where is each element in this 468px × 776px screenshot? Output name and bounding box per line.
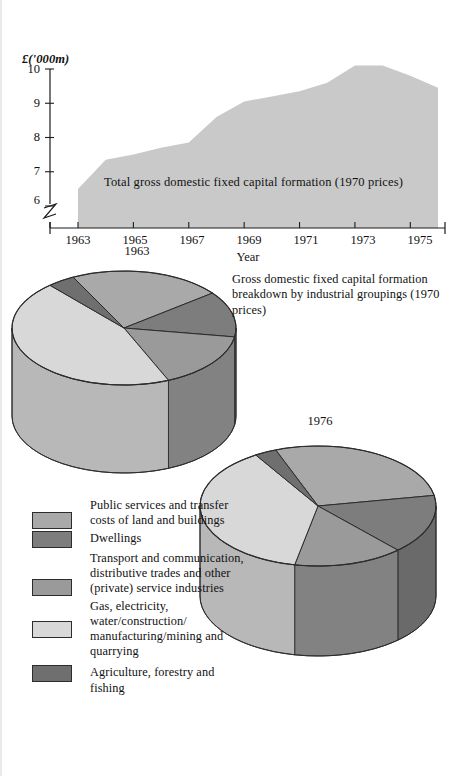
area-series-polygon (78, 66, 438, 228)
legend-swatch-dwellings (32, 531, 72, 548)
y-tick-label-10: 10 (18, 63, 40, 76)
legend-item-public-services: Public services and transfer costs of la… (32, 498, 247, 529)
legend-label-public-services: Public services and transfer costs of la… (90, 498, 247, 528)
y-tick-label-9: 9 (18, 97, 40, 110)
x-tick-label-1967: 1967 (170, 234, 214, 247)
legend-swatch-transport (32, 579, 72, 596)
legend-swatch-gas-electricity (32, 621, 72, 638)
legend-label-gas-electricity: Gas, electricity, water/construction/ ma… (90, 599, 247, 660)
pie-1976-year-label: 1976 (285, 415, 355, 428)
figure-page: £('000m) 10 9 8 7 6 1963 1965 1967 1 (0, 0, 468, 776)
x-tick-label-1971: 1971 (284, 234, 328, 247)
legend-swatch-public-services (32, 512, 72, 529)
pie-1963-year-label: 1963 (102, 245, 172, 258)
legend-item-transport: Transport and communication, distributiv… (32, 551, 247, 597)
y-tick-label-8: 8 (18, 131, 40, 144)
x-tick-label-1973: 1973 (341, 234, 385, 247)
legend-label-transport: Transport and communication, distributiv… (90, 551, 247, 597)
legend-item-gas-electricity: Gas, electricity, water/construction/ ma… (32, 599, 247, 660)
area-chart: £('000m) 10 9 8 7 6 1963 1965 1967 1 (0, 28, 468, 253)
legend-item-dwellings: Dwellings (32, 531, 247, 548)
x-tick-label-1963: 1963 (56, 234, 100, 247)
legend-label-agriculture: Agriculture, forestry and fishing (90, 665, 247, 695)
legend-item-agriculture: Agriculture, forestry and fishing (32, 665, 247, 695)
x-tick-label-1969: 1969 (227, 234, 271, 247)
area-chart-canvas (0, 28, 468, 253)
pies-description-note: Gross domestic fixed capital formation b… (232, 272, 447, 318)
legend-label-dwellings: Dwellings (90, 531, 141, 546)
area-series-label: Total gross domestic fixed capital forma… (104, 175, 403, 190)
x-tick-label-1975: 1975 (398, 234, 442, 247)
y-tick-label-6: 6 (18, 194, 40, 207)
legend: Public services and transfer costs of la… (32, 498, 247, 702)
y-tick-label-7: 7 (18, 165, 40, 178)
legend-swatch-agriculture (32, 665, 72, 682)
